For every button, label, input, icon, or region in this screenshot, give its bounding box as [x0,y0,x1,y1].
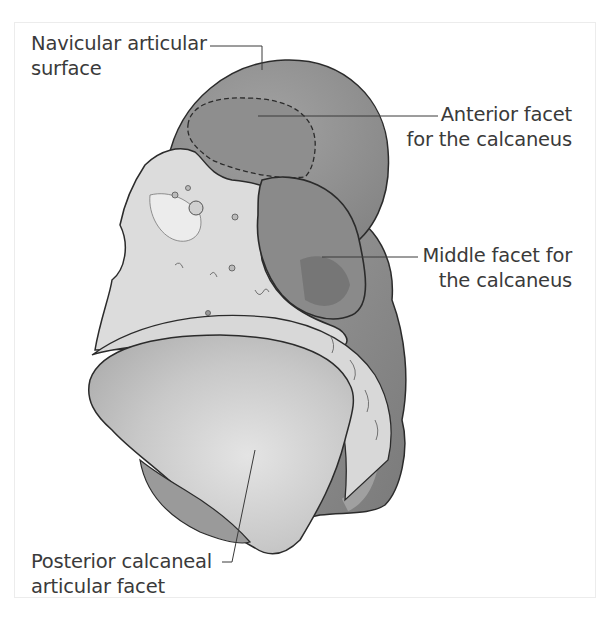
label-line: the calcaneus [422,268,572,293]
label-line: Middle facet for [422,243,572,268]
label-line: for the calcaneus [407,127,572,152]
label-line: Navicular articular [31,31,207,56]
label-middle-facet: Middle facet for the calcaneus [422,243,572,293]
label-navicular-articular-surface: Navicular articular surface [31,31,207,81]
talus-illustration [0,0,608,635]
label-posterior-calcaneal-facet: Posterior calcaneal articular facet [31,549,212,599]
label-line: surface [31,56,207,81]
label-line: Posterior calcaneal [31,549,212,574]
label-line: Anterior facet [407,102,572,127]
label-anterior-facet: Anterior facet for the calcaneus [407,102,572,152]
label-line: articular facet [31,574,212,599]
